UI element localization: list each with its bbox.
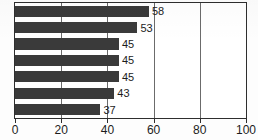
x-tick-label-20: 20 (55, 124, 68, 137)
bar-value-label: 53 (140, 22, 152, 33)
bar-row: 45 (15, 38, 246, 49)
x-axis: 020406080100 (14, 119, 247, 140)
x-tick-label-60: 60 (147, 124, 160, 137)
bar-row: 37 (15, 104, 246, 115)
bar (15, 55, 119, 66)
bar-chart: 58534545454337 020406080100 (0, 0, 258, 140)
x-tick-label-80: 80 (193, 124, 206, 137)
bar-value-label: 58 (152, 6, 164, 17)
bars-layer: 58534545454337 (15, 3, 246, 118)
bar-row: 58 (15, 6, 246, 17)
bar-row: 45 (15, 55, 246, 66)
bar (15, 6, 149, 17)
bar (15, 104, 100, 115)
x-tick-label-0: 0 (12, 124, 19, 137)
bar-value-label: 43 (117, 88, 129, 99)
bar-row: 45 (15, 71, 246, 82)
x-tick-label-100: 100 (236, 124, 256, 137)
bar-row: 43 (15, 88, 246, 99)
bar-value-label: 45 (122, 55, 134, 66)
bar (15, 88, 114, 99)
bar (15, 71, 119, 82)
bar-row: 53 (15, 22, 246, 33)
bar-value-label: 37 (103, 104, 115, 115)
bar-value-label: 45 (122, 71, 134, 82)
bar (15, 38, 119, 49)
x-tick-label-40: 40 (101, 124, 114, 137)
bar (15, 22, 137, 33)
bar-value-label: 45 (122, 39, 134, 50)
plot-area: 58534545454337 (14, 2, 247, 119)
